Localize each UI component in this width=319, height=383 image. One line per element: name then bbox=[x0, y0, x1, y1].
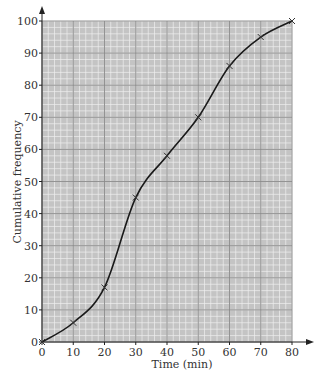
y-axis-arrow-icon bbox=[39, 6, 45, 14]
cumulative-frequency-chart: 010203040506070800102030405060708090100 … bbox=[0, 0, 319, 383]
x-axis-title: Time (min) bbox=[152, 358, 213, 371]
y-tick-label: 20 bbox=[24, 272, 38, 285]
y-tick-label: 70 bbox=[24, 111, 38, 124]
x-axis-arrow-icon bbox=[306, 339, 314, 345]
y-tick-label: 50 bbox=[24, 176, 38, 189]
y-tick-label: 0 bbox=[31, 336, 38, 349]
graph-paper-grid bbox=[42, 21, 292, 342]
y-tick-label: 10 bbox=[24, 304, 38, 317]
y-tick-label: 100 bbox=[17, 15, 38, 28]
x-tick-label: 0 bbox=[39, 346, 46, 359]
y-tick-label: 40 bbox=[24, 208, 38, 221]
x-tick-label: 30 bbox=[129, 346, 143, 359]
x-tick-label: 80 bbox=[285, 346, 299, 359]
y-tick-label: 80 bbox=[24, 79, 38, 92]
x-tick-label: 20 bbox=[98, 346, 112, 359]
x-tick-label: 60 bbox=[223, 346, 237, 359]
x-tick-label: 10 bbox=[66, 346, 80, 359]
y-tick-label: 60 bbox=[24, 143, 38, 156]
y-tick-label: 30 bbox=[24, 240, 38, 253]
y-axis-title: Cumulative frequency bbox=[11, 120, 24, 244]
y-tick-label: 90 bbox=[24, 47, 38, 60]
x-tick-label: 70 bbox=[254, 346, 268, 359]
